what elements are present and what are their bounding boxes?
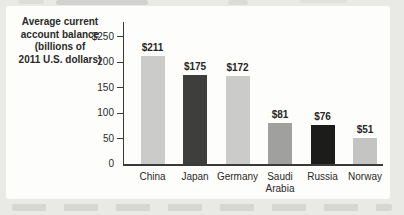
bar-germany: [226, 76, 250, 164]
y-axis-tick-label: 50: [73, 133, 114, 145]
y-axis-tick: [117, 36, 123, 37]
bar-value-label: $172: [216, 62, 260, 74]
bar-value-label: $76: [301, 111, 345, 123]
bar-saudi-arabia: [268, 123, 292, 164]
y-axis-title-line: (billions of: [35, 41, 86, 52]
y-axis-tick-label: 200: [73, 56, 114, 68]
bar-value-label: $81: [258, 109, 302, 121]
x-axis-line: [123, 164, 383, 166]
y-axis-title-line: Average current: [22, 16, 98, 27]
bar-value-label: $175: [173, 61, 217, 73]
y-axis-tick-label: 0: [73, 158, 114, 170]
y-axis-line: [123, 22, 124, 165]
y-axis-tick: [117, 138, 123, 139]
bar-japan: [183, 75, 207, 164]
y-axis-tick-label: 150: [73, 82, 114, 94]
y-axis-tick: [117, 87, 123, 88]
bar-value-label: $211: [131, 42, 175, 54]
bar-value-label: $51: [343, 124, 387, 136]
category-label: Norway: [338, 171, 392, 183]
y-axis-tick-label: 100: [73, 107, 114, 119]
bar-norway: [353, 138, 377, 164]
bar-russia: [311, 125, 335, 164]
y-axis-tick-label: $250: [73, 31, 114, 43]
bar-chart: Average current account balance (billion…: [0, 0, 404, 215]
y-axis-tick: [117, 113, 123, 114]
bar-china: [141, 56, 165, 164]
page-background: { "figure": { "background": "#e9e9e6", "…: [0, 0, 404, 215]
y-axis-tick: [117, 62, 123, 63]
